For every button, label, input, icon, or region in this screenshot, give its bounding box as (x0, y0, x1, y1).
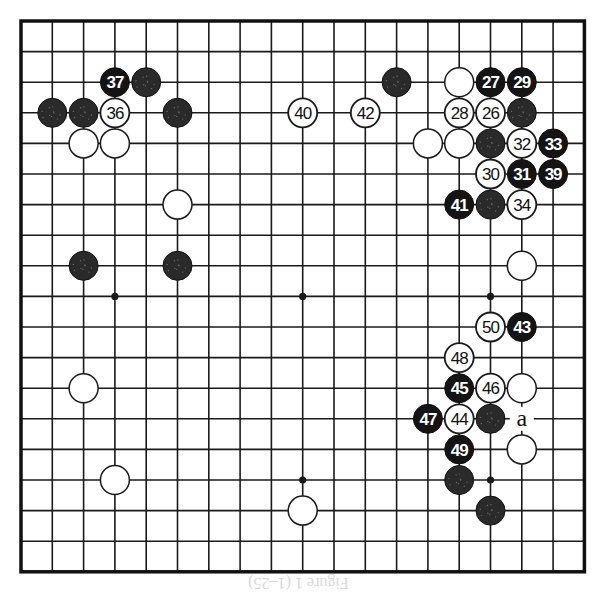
move-number-label: 44 (451, 410, 468, 429)
move-number-label: 27 (482, 73, 499, 92)
white-stone (69, 129, 98, 158)
black-stone (163, 98, 192, 127)
point-marker-label: a (516, 405, 527, 431)
black-stone (507, 98, 536, 127)
white-stone (163, 190, 192, 219)
white-stone: 48 (445, 343, 474, 372)
white-stone: 42 (351, 98, 380, 127)
move-number-label: 28 (451, 104, 468, 123)
black-stone (445, 466, 474, 495)
star-point (299, 293, 306, 300)
white-stone (413, 129, 442, 158)
move-number-label: 33 (545, 135, 562, 154)
white-stone: 40 (288, 98, 317, 127)
move-number-label: 48 (451, 349, 468, 368)
white-stone (69, 374, 98, 403)
white-stone (507, 374, 536, 403)
move-number-label: 42 (357, 104, 374, 123)
black-stone: 33 (539, 129, 568, 158)
move-number-label: 40 (294, 104, 311, 123)
move-number-label: 47 (419, 410, 436, 429)
move-number-label: 32 (513, 135, 530, 154)
black-stone: 47 (413, 404, 442, 433)
black-stone: 41 (445, 190, 474, 219)
black-stone: 39 (539, 160, 568, 189)
black-stone: 37 (100, 68, 129, 97)
white-stone: 28 (445, 98, 474, 127)
black-stone: 45 (445, 374, 474, 403)
white-stone: 36 (100, 98, 129, 127)
black-stone: 43 (507, 313, 536, 342)
white-stone (445, 68, 474, 97)
black-stone (69, 251, 98, 280)
figure-caption-bleedthrough: Figure 1 (1–25) (0, 574, 597, 592)
move-number-label: 43 (513, 318, 530, 337)
black-stone (38, 98, 67, 127)
move-number-label: 36 (106, 104, 123, 123)
black-stone (69, 98, 98, 127)
white-stone (507, 251, 536, 280)
black-stone (476, 129, 505, 158)
white-stone (445, 129, 474, 158)
star-point (487, 476, 494, 483)
black-stone: 29 (507, 68, 536, 97)
black-stone: 27 (476, 68, 505, 97)
move-number-label: 49 (451, 441, 468, 460)
star-point (111, 293, 118, 300)
black-stone (476, 496, 505, 525)
white-stone: 44 (445, 404, 474, 433)
black-stone: 31 (507, 160, 536, 189)
move-number-label: 39 (545, 165, 562, 184)
star-point (299, 476, 306, 483)
move-number-label: 41 (451, 196, 468, 215)
move-number-label: 45 (451, 379, 468, 398)
white-stone: 26 (476, 98, 505, 127)
move-number-label: 29 (513, 73, 530, 92)
move-number-label: 50 (482, 318, 499, 337)
white-stone (100, 129, 129, 158)
move-number-label: 37 (106, 73, 123, 92)
white-stone (507, 435, 536, 464)
move-number-label: 31 (513, 165, 530, 184)
white-stone (100, 466, 129, 495)
white-stone: 32 (507, 129, 536, 158)
move-number-label: 26 (482, 104, 499, 123)
move-number-label: 30 (482, 165, 499, 184)
black-stone (382, 68, 411, 97)
move-number-label: 34 (513, 196, 530, 215)
white-stone: 46 (476, 374, 505, 403)
white-stone: 50 (476, 313, 505, 342)
black-stone (476, 404, 505, 433)
go-board-diagram: 3736404227292826323330313941345043484546… (0, 0, 597, 596)
black-stone: 49 (445, 435, 474, 464)
move-number-label: 46 (482, 379, 499, 398)
white-stone: 34 (507, 190, 536, 219)
white-stone (288, 496, 317, 525)
black-stone (163, 251, 192, 280)
white-stone: 30 (476, 160, 505, 189)
black-stone (476, 190, 505, 219)
black-stone (132, 68, 161, 97)
markers-layer: a (510, 405, 534, 431)
star-point (487, 293, 494, 300)
